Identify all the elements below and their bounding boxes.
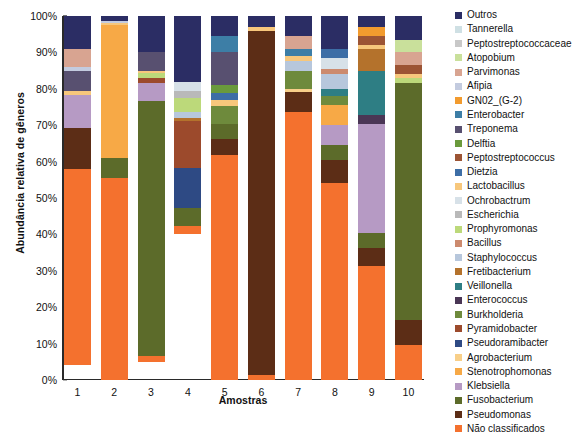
bar-segment[interactable] bbox=[64, 95, 91, 128]
bar-segment[interactable] bbox=[321, 96, 348, 105]
bar-segment[interactable] bbox=[211, 85, 238, 93]
bar-segment[interactable] bbox=[321, 16, 348, 49]
bar-column[interactable]: 9 bbox=[358, 16, 385, 380]
bar-segment[interactable] bbox=[285, 16, 312, 36]
legend-item[interactable]: Escherichia bbox=[455, 208, 587, 222]
bar-segment[interactable] bbox=[321, 183, 348, 380]
bar-segment[interactable] bbox=[211, 139, 238, 155]
bar-segment[interactable] bbox=[174, 121, 201, 168]
bar-column[interactable]: 1 bbox=[64, 16, 91, 380]
bar-column[interactable]: 10 bbox=[395, 16, 422, 380]
bar-segment[interactable] bbox=[211, 36, 238, 52]
legend-item[interactable]: Prophyromonas bbox=[455, 222, 587, 236]
bar-segment[interactable] bbox=[285, 49, 312, 56]
bar-segment[interactable] bbox=[395, 16, 422, 40]
bar-segment[interactable] bbox=[285, 36, 312, 49]
bar-column[interactable]: 2 bbox=[101, 16, 128, 380]
bar-segment[interactable] bbox=[285, 92, 312, 112]
legend-item[interactable]: Fusobacterium bbox=[455, 393, 587, 407]
bar-segment[interactable] bbox=[101, 178, 128, 380]
bar-segment[interactable] bbox=[211, 52, 238, 85]
bar-segment[interactable] bbox=[285, 71, 312, 89]
bar-segment[interactable] bbox=[174, 208, 201, 226]
bar-segment[interactable] bbox=[101, 25, 128, 158]
legend-item[interactable]: Burkholderia bbox=[455, 308, 587, 322]
bar-segment[interactable] bbox=[211, 155, 238, 380]
legend-item[interactable]: Staphylococcus bbox=[455, 251, 587, 265]
legend-item[interactable]: Delftia bbox=[455, 136, 587, 150]
bar-segment[interactable] bbox=[211, 106, 238, 124]
bar-segment[interactable] bbox=[174, 91, 201, 98]
legend-item[interactable]: Treponema bbox=[455, 122, 587, 136]
legend-item[interactable]: Bacillus bbox=[455, 236, 587, 250]
bar-segment[interactable] bbox=[358, 27, 385, 36]
bar-segment[interactable] bbox=[358, 233, 385, 248]
bar-segment[interactable] bbox=[358, 266, 385, 380]
legend-item[interactable]: GN02_(G-2) bbox=[455, 94, 587, 108]
bar-column[interactable]: 7 bbox=[285, 16, 312, 380]
bar-segment[interactable] bbox=[174, 98, 201, 113]
legend-item[interactable]: Dietzia bbox=[455, 165, 587, 179]
bar-segment[interactable] bbox=[174, 16, 201, 82]
bar-segment[interactable] bbox=[138, 356, 165, 361]
bar-segment[interactable] bbox=[395, 65, 422, 74]
bar-segment[interactable] bbox=[174, 82, 201, 91]
bar-segment[interactable] bbox=[321, 145, 348, 160]
bar-segment[interactable] bbox=[101, 158, 128, 178]
bar-segment[interactable] bbox=[211, 124, 238, 139]
bar-segment[interactable] bbox=[321, 58, 348, 69]
bar-segment[interactable] bbox=[211, 93, 238, 100]
bar-segment[interactable] bbox=[285, 61, 312, 70]
bar-segment[interactable] bbox=[321, 49, 348, 58]
bar-column[interactable]: 4 bbox=[174, 16, 201, 380]
bar-segment[interactable] bbox=[358, 16, 385, 27]
bar-segment[interactable] bbox=[395, 345, 422, 380]
bar-segment[interactable] bbox=[321, 105, 348, 125]
bar-column[interactable]: 8 bbox=[321, 16, 348, 380]
bar-segment[interactable] bbox=[174, 168, 201, 208]
bar-segment[interactable] bbox=[358, 36, 385, 45]
bar-segment[interactable] bbox=[64, 16, 91, 49]
legend-item[interactable]: Peptostreptococcaceae bbox=[455, 37, 587, 51]
bar-segment[interactable] bbox=[358, 248, 385, 266]
bar-segment[interactable] bbox=[358, 71, 385, 115]
legend-item[interactable]: Peptostreptococcus bbox=[455, 151, 587, 165]
legend-item[interactable]: Não classificados bbox=[455, 422, 587, 436]
bar-column[interactable]: 3 bbox=[138, 16, 165, 380]
bar-segment[interactable] bbox=[285, 112, 312, 380]
legend-item[interactable]: Parvimonas bbox=[455, 65, 587, 79]
bar-segment[interactable] bbox=[248, 31, 275, 374]
legend-item[interactable]: Enterococcus bbox=[455, 293, 587, 307]
legend-item[interactable]: Klebsiella bbox=[455, 379, 587, 393]
bar-segment[interactable] bbox=[248, 16, 275, 27]
legend-item[interactable]: Ochrobactrum bbox=[455, 193, 587, 207]
bar-segment[interactable] bbox=[138, 83, 165, 101]
bar-segment[interactable] bbox=[395, 52, 422, 65]
bar-segment[interactable] bbox=[64, 71, 91, 91]
bar-column[interactable]: 6 bbox=[248, 16, 275, 380]
legend-item[interactable]: Agrobacterium bbox=[455, 350, 587, 364]
bar-segment[interactable] bbox=[395, 83, 422, 320]
legend-item[interactable]: Enterobacter bbox=[455, 108, 587, 122]
legend-item[interactable]: Veillonella bbox=[455, 279, 587, 293]
legend-item[interactable]: Tannerella bbox=[455, 22, 587, 36]
legend-item[interactable]: Fretibacterium bbox=[455, 265, 587, 279]
bar-segment[interactable] bbox=[321, 160, 348, 184]
bar-segment[interactable] bbox=[395, 40, 422, 53]
legend-item[interactable]: Outros bbox=[455, 8, 587, 22]
bar-segment[interactable] bbox=[321, 125, 348, 145]
bar-segment[interactable] bbox=[395, 320, 422, 345]
bar-segment[interactable] bbox=[321, 74, 348, 89]
bar-segment[interactable] bbox=[64, 169, 91, 366]
bar-segment[interactable] bbox=[358, 49, 385, 71]
legend-item[interactable]: Pseudomonas bbox=[455, 407, 587, 421]
bar-segment[interactable] bbox=[64, 128, 91, 169]
legend-item[interactable]: Pyramidobacter bbox=[455, 322, 587, 336]
bar-segment[interactable] bbox=[138, 52, 165, 70]
legend-item[interactable]: Lactobacillus bbox=[455, 179, 587, 193]
legend-item[interactable]: Atopobium bbox=[455, 51, 587, 65]
bar-segment[interactable] bbox=[321, 89, 348, 96]
bar-segment[interactable] bbox=[174, 226, 201, 234]
legend-item[interactable]: Afipia bbox=[455, 79, 587, 93]
bar-segment[interactable] bbox=[211, 16, 238, 36]
